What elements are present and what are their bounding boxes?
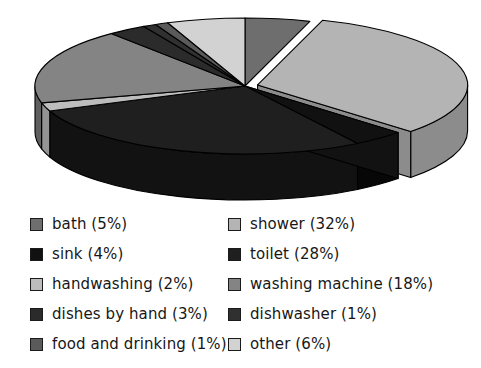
legend-label-food-and-drinking: food and drinking (1%) — [52, 337, 227, 352]
legend-swatch-shower — [228, 218, 241, 231]
legend-swatch-bath — [30, 218, 43, 231]
legend-label-bath: bath (5%) — [52, 217, 127, 232]
legend-label-toilet: toilet (28%) — [250, 247, 340, 262]
legend-swatch-washing-machine — [228, 278, 241, 291]
legend-label-shower: shower (32%) — [250, 217, 355, 232]
legend-swatch-dishes-by-hand — [30, 308, 43, 321]
legend-item-sink: sink (4%) — [30, 239, 228, 269]
legend-swatch-handwashing — [30, 278, 43, 291]
legend-swatch-toilet — [228, 248, 241, 261]
legend-label-dishwasher: dishwasher (1%) — [250, 307, 377, 322]
legend-swatch-food-and-drinking — [30, 338, 43, 351]
legend-item-other: other (6%) — [228, 329, 470, 359]
legend-item-food-and-drinking: food and drinking (1%) — [30, 329, 228, 359]
legend-label-dishes-by-hand: dishes by hand (3%) — [52, 307, 208, 322]
legend-label-other: other (6%) — [250, 337, 331, 352]
pie-side-handwashing — [42, 103, 50, 157]
legend-item-shower: shower (32%) — [228, 209, 470, 239]
legend-label-washing-machine: washing machine (18%) — [250, 277, 433, 292]
legend-swatch-other — [228, 338, 241, 351]
legend-item-bath: bath (5%) — [30, 209, 228, 239]
legend-item-dishes-by-hand: dishes by hand (3%) — [30, 299, 228, 329]
legend-label-handwashing: handwashing (2%) — [52, 277, 194, 292]
legend-swatch-sink — [30, 248, 43, 261]
pie-chart-figure: bath (5%) shower (32%) sink (4%) toilet … — [0, 0, 481, 368]
legend-item-toilet: toilet (28%) — [228, 239, 470, 269]
chart-legend: bath (5%) shower (32%) sink (4%) toilet … — [30, 209, 470, 359]
legend-item-washing-machine: washing machine (18%) — [228, 269, 470, 299]
legend-label-sink: sink (4%) — [52, 247, 123, 262]
legend-item-dishwasher: dishwasher (1%) — [228, 299, 470, 329]
legend-swatch-dishwasher — [228, 308, 241, 321]
legend-item-handwashing: handwashing (2%) — [30, 269, 228, 299]
